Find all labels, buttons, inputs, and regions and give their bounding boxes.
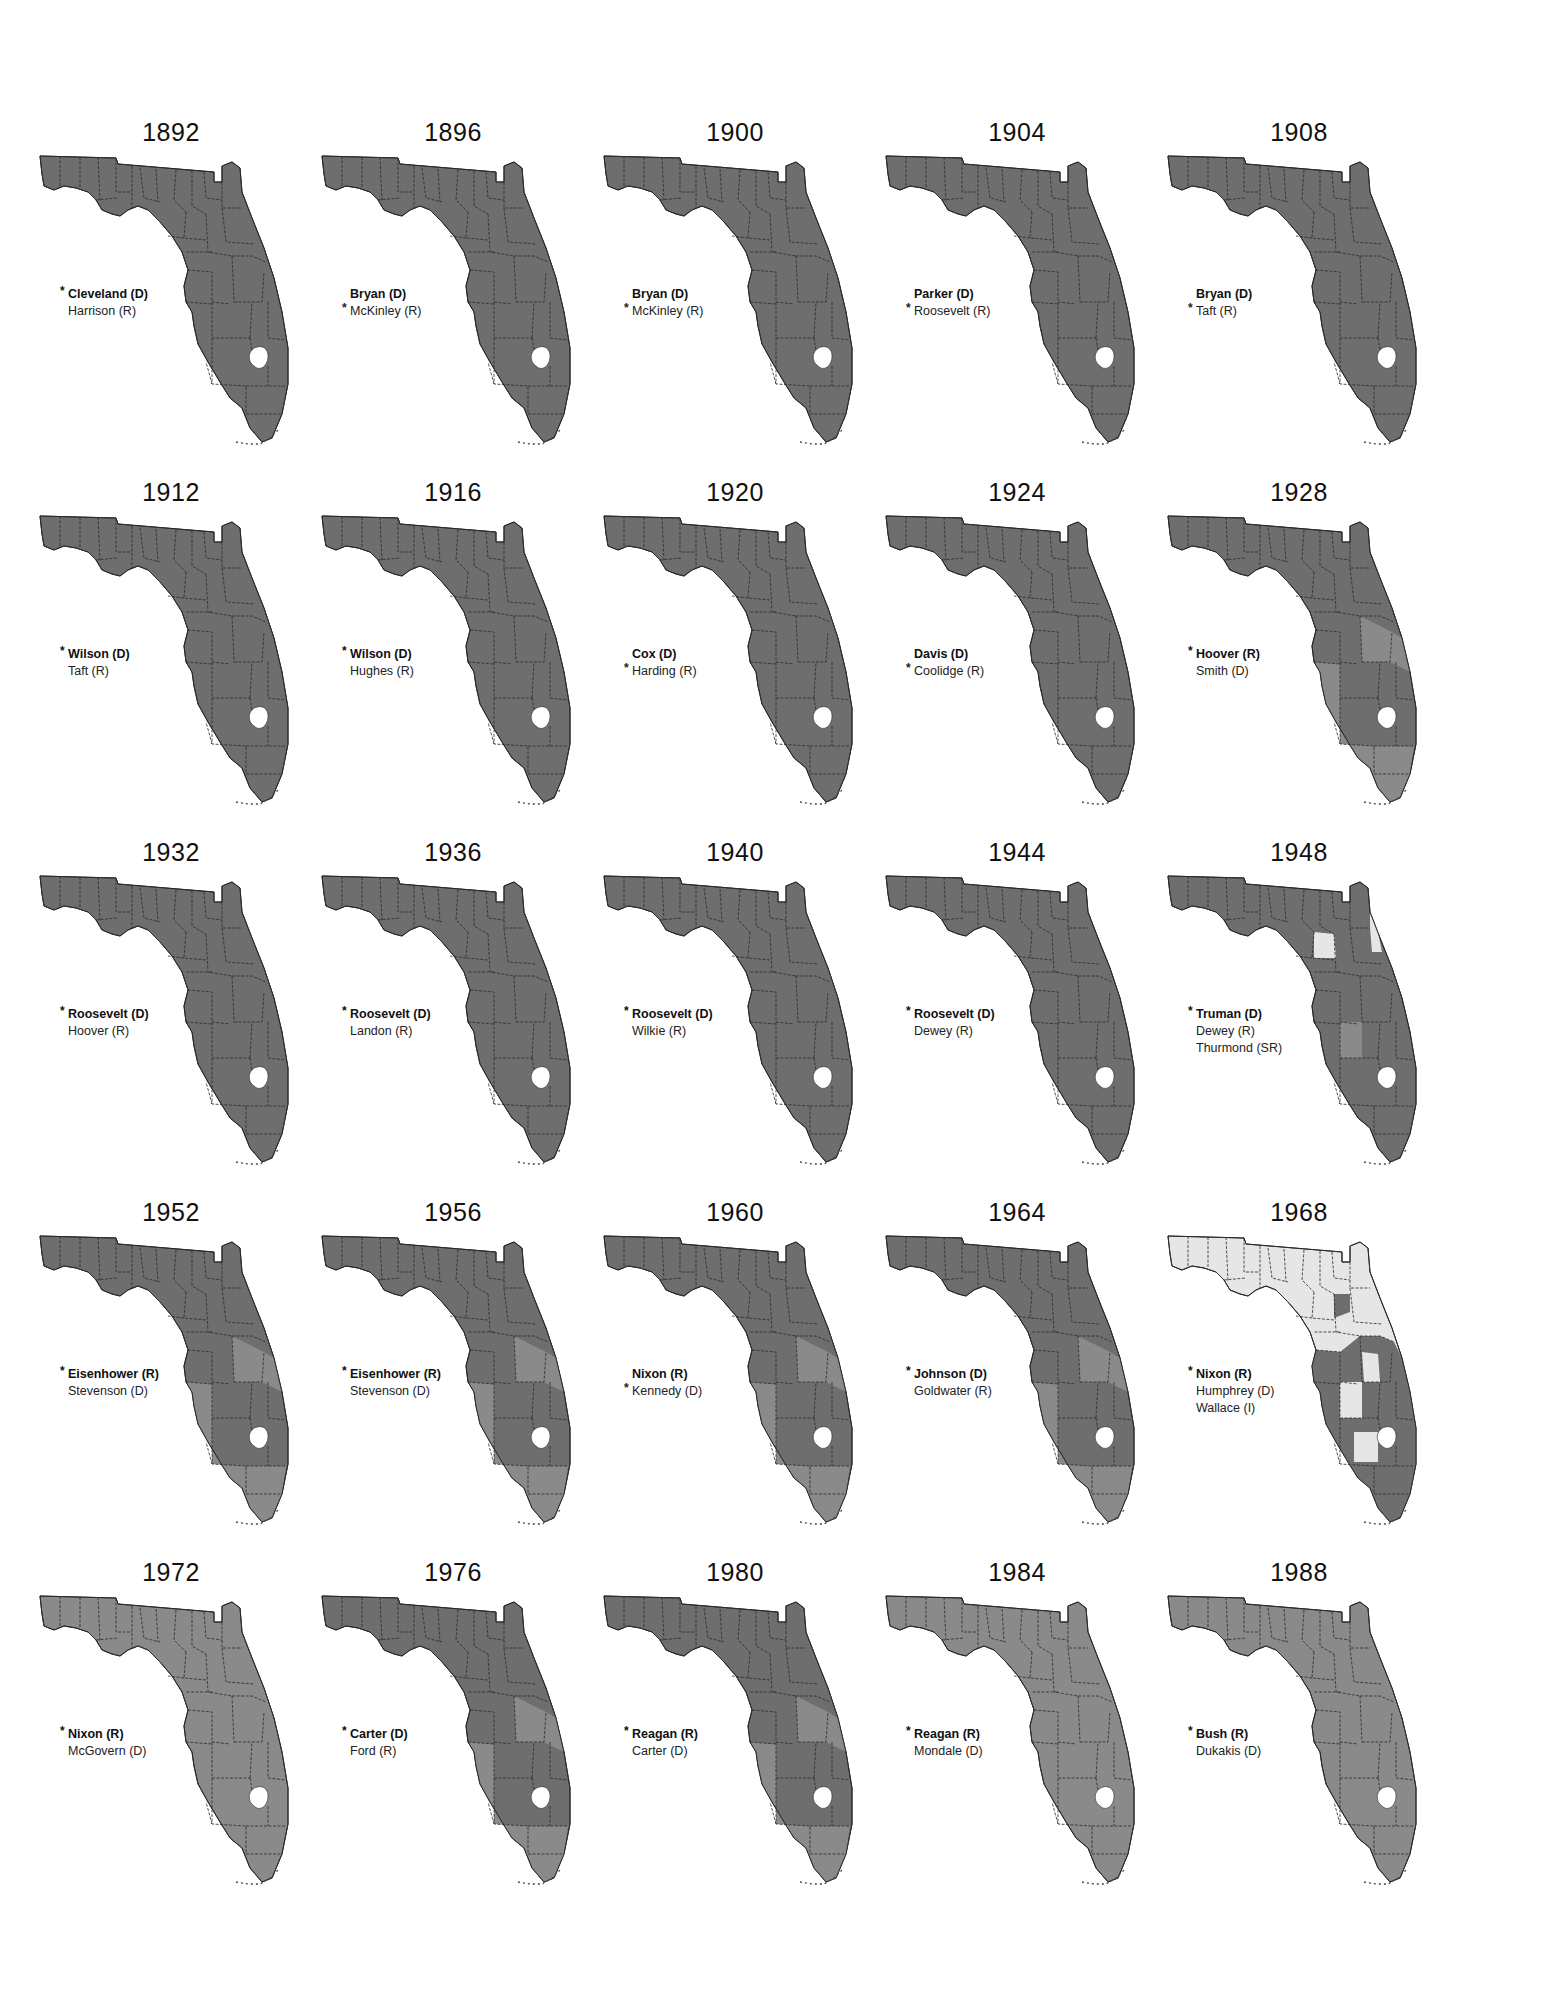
winner-asterisk-icon: *	[624, 300, 629, 317]
election-year: 1912	[30, 478, 312, 507]
candidate-name: Eisenhower (R)	[68, 1367, 159, 1381]
candidate-list: *Roosevelt (D)Dewey (R)	[914, 1006, 995, 1040]
winner-asterisk-icon: *	[342, 300, 347, 317]
candidate-winner: *Kennedy (D)	[632, 1383, 702, 1400]
winner-asterisk-icon: *	[60, 643, 65, 660]
election-year: 1920	[594, 478, 876, 507]
candidate-winner: *Truman (D)	[1196, 1006, 1282, 1023]
candidate-winner: *Carter (D)	[350, 1726, 408, 1743]
candidate-list: *Nixon (R)McGovern (D)	[68, 1726, 146, 1760]
candidate: Carter (D)	[632, 1743, 698, 1760]
election-panel: 1920 Cox (D)*Harding (R)	[594, 478, 876, 838]
candidate-name: Ford (R)	[350, 1744, 397, 1758]
candidate: Wilkie (R)	[632, 1023, 713, 1040]
candidate-name: Roosevelt (D)	[632, 1007, 713, 1021]
election-panel: 1904 Parker (D)*Roosevelt (R)	[876, 118, 1158, 478]
candidate-winner: *Nixon (R)	[1196, 1366, 1275, 1383]
candidate-winner: *Wilson (D)	[68, 646, 130, 663]
winner-asterisk-icon: *	[1188, 1003, 1193, 1020]
candidate-name: Stevenson (D)	[350, 1384, 430, 1398]
winner-asterisk-icon: *	[60, 283, 65, 300]
election-panel: 1940 *Roosevelt (D)Wilkie (R)	[594, 838, 876, 1198]
candidate-name: Coolidge (R)	[914, 664, 984, 678]
candidate-winner: *Reagan (R)	[914, 1726, 983, 1743]
candidate-list: *Roosevelt (D)Hoover (R)	[68, 1006, 149, 1040]
candidate-winner: *Hoover (R)	[1196, 646, 1260, 663]
candidate-winner: *Johnson (D)	[914, 1366, 992, 1383]
election-year: 1968	[1158, 1198, 1440, 1227]
winner-asterisk-icon: *	[342, 1363, 347, 1380]
candidate-list: *Reagan (R)Carter (D)	[632, 1726, 698, 1760]
candidate: Bryan (D)	[350, 286, 422, 303]
election-year: 1944	[876, 838, 1158, 867]
candidate: Dukakis (D)	[1196, 1743, 1261, 1760]
candidate-name: McKinley (R)	[632, 304, 704, 318]
candidate-winner: *Wilson (D)	[350, 646, 414, 663]
candidate-name: Parker (D)	[914, 287, 974, 301]
candidate-name: Johnson (D)	[914, 1367, 987, 1381]
candidate-winner: *Reagan (R)	[632, 1726, 698, 1743]
candidate-list: Davis (D)*Coolidge (R)	[914, 646, 984, 680]
candidate: Dewey (R)	[914, 1023, 995, 1040]
candidate-list: *Truman (D)Dewey (R)Thurmond (SR)	[1196, 1006, 1282, 1057]
election-panel: 1944 *Roosevelt (D)Dewey (R)	[876, 838, 1158, 1198]
candidate-winner: *Coolidge (R)	[914, 663, 984, 680]
candidate: Davis (D)	[914, 646, 984, 663]
election-year: 1892	[30, 118, 312, 147]
election-year: 1956	[312, 1198, 594, 1227]
candidate: Mondale (D)	[914, 1743, 983, 1760]
election-year: 1952	[30, 1198, 312, 1227]
candidate-name: Kennedy (D)	[632, 1384, 702, 1398]
election-panel: 1980 *Reagan (R)Carter (D)	[594, 1558, 876, 1918]
candidate-list: *Wilson (D)Hughes (R)	[350, 646, 414, 680]
election-year: 1976	[312, 1558, 594, 1587]
candidate-winner: *Harding (R)	[632, 663, 697, 680]
candidate-name: Wallace (I)	[1196, 1401, 1255, 1415]
election-panel: 1896 Bryan (D)*McKinley (R)	[312, 118, 594, 478]
candidate: Hoover (R)	[68, 1023, 149, 1040]
election-year: 1928	[1158, 478, 1440, 507]
winner-asterisk-icon: *	[1188, 1363, 1193, 1380]
candidate-list: Bryan (D)*McKinley (R)	[632, 286, 704, 320]
election-year: 1924	[876, 478, 1158, 507]
candidate: Hughes (R)	[350, 663, 414, 680]
election-panel: 1924 Davis (D)*Coolidge (R)	[876, 478, 1158, 838]
candidate: Smith (D)	[1196, 663, 1260, 680]
winner-asterisk-icon: *	[624, 1003, 629, 1020]
candidate-name: Hughes (R)	[350, 664, 414, 678]
candidate-name: Davis (D)	[914, 647, 968, 661]
candidate-name: Roosevelt (D)	[68, 1007, 149, 1021]
candidate-list: Nixon (R)*Kennedy (D)	[632, 1366, 702, 1400]
candidate-name: Bryan (D)	[632, 287, 688, 301]
candidate: Nixon (R)	[632, 1366, 702, 1383]
candidate-list: *Roosevelt (D)Wilkie (R)	[632, 1006, 713, 1040]
election-panel: 1956 *Eisenhower (R)Stevenson (D)	[312, 1198, 594, 1558]
candidate-name: Eisenhower (R)	[350, 1367, 441, 1381]
candidate: Cox (D)	[632, 646, 697, 663]
candidate-winner: *Eisenhower (R)	[68, 1366, 159, 1383]
election-panel: 1892 *Cleveland (D)Harrison (R)	[30, 118, 312, 478]
election-panel: 1984 *Reagan (R)Mondale (D)	[876, 1558, 1158, 1918]
election-panel: 1936 *Roosevelt (D)Landon (R)	[312, 838, 594, 1198]
candidate-name: McKinley (R)	[350, 304, 422, 318]
candidate-list: *Johnson (D)Goldwater (R)	[914, 1366, 992, 1400]
winner-asterisk-icon: *	[624, 660, 629, 677]
candidate-winner: *McKinley (R)	[350, 303, 422, 320]
winner-asterisk-icon: *	[342, 1723, 347, 1740]
candidate-name: Carter (D)	[632, 1744, 688, 1758]
candidate-name: Harding (R)	[632, 664, 697, 678]
candidate-list: *Reagan (R)Mondale (D)	[914, 1726, 983, 1760]
winner-asterisk-icon: *	[342, 1003, 347, 1020]
candidate-winner: *McKinley (R)	[632, 303, 704, 320]
candidate-list: Parker (D)*Roosevelt (R)	[914, 286, 990, 320]
candidate: Taft (R)	[68, 663, 130, 680]
candidate-list: Bryan (D)*McKinley (R)	[350, 286, 422, 320]
candidate-name: Reagan (R)	[914, 1727, 980, 1741]
candidate-list: *Nixon (R)Humphrey (D)Wallace (I)	[1196, 1366, 1275, 1417]
election-panel: 1912 *Wilson (D)Taft (R)	[30, 478, 312, 838]
candidate-winner: *Bush (R)	[1196, 1726, 1261, 1743]
candidate-list: Bryan (D)*Taft (R)	[1196, 286, 1252, 320]
candidate-name: Bryan (D)	[350, 287, 406, 301]
winner-asterisk-icon: *	[624, 1723, 629, 1740]
candidate-name: Wilson (D)	[68, 647, 130, 661]
